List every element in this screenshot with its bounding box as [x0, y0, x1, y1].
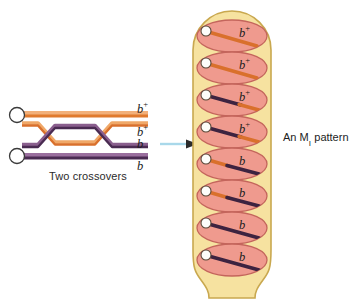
- centromere-lower: [10, 149, 25, 164]
- ascospore-5: [197, 148, 267, 180]
- ascus-diagram: b+ b+ b+ b+ b b b b: [183, 6, 283, 302]
- caption-two-crossovers: Two crossovers: [28, 170, 148, 182]
- caption-mi-subscript: I: [309, 139, 312, 148]
- caption-mi-suffix: pattern: [311, 131, 348, 143]
- caption-mi-pattern: An MI pattern: [283, 131, 349, 146]
- ascospore-6: [197, 180, 267, 212]
- ascospore-7: [197, 212, 267, 244]
- caption-mi-prefix: An M: [283, 131, 309, 143]
- ascospore-4: [197, 116, 267, 148]
- ascospore-2: [197, 52, 267, 84]
- ascus-svg: [183, 6, 283, 302]
- chromatid-label-1: b+: [137, 103, 148, 116]
- ascospore-1: [197, 20, 267, 52]
- ascospore-label-4: b+: [239, 123, 250, 136]
- ascospore-label-8: b: [239, 251, 245, 264]
- ascospore-label-6: b: [239, 187, 245, 200]
- centromere-upper: [10, 108, 25, 123]
- ascospore-3: [197, 84, 267, 116]
- chromatid-label-3: b: [137, 138, 143, 151]
- ascospore-8: [197, 244, 267, 276]
- chromatid-1-nonrecombinant: [22, 113, 148, 116]
- ascospore-label-2: b+: [239, 59, 250, 72]
- figure-canvas: b+ b+ b b Two crossovers: [0, 0, 349, 308]
- ascospore-label-3: b+: [239, 91, 250, 104]
- ascospore-label-1: b+: [239, 27, 250, 40]
- tetrad-crossover-diagram: b+ b+ b b: [0, 90, 170, 200]
- ascospore-label-7: b: [239, 219, 245, 232]
- chromatid-4-nonrecombinant: [22, 155, 148, 158]
- ascospore-label-5: b: [239, 155, 245, 168]
